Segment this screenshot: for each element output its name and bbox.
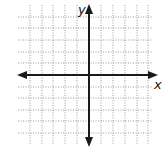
- coordinate-plane: y x: [0, 0, 168, 153]
- y-axis-bottom-arrow-icon: [85, 137, 93, 147]
- y-axis-label: y: [77, 2, 86, 17]
- x-axis-label: x: [153, 77, 162, 92]
- coordinate-grid-svg: y x: [0, 0, 168, 153]
- x-axis-left-arrow-icon: [17, 71, 27, 79]
- y-axis-top-arrow-icon: [85, 4, 93, 14]
